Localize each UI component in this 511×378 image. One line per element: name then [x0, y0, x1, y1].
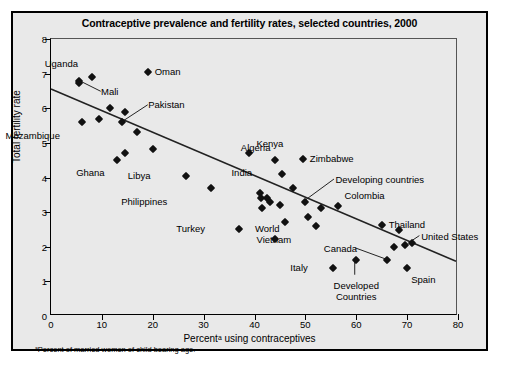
data-point — [207, 184, 215, 192]
x-tick-label: 30 — [198, 319, 209, 330]
x-tick-label: 70 — [402, 319, 413, 330]
point-label: Uganda — [45, 59, 78, 69]
point-label: Mali — [101, 87, 118, 97]
data-point — [334, 202, 342, 210]
x-tick-mark — [102, 314, 103, 320]
data-point — [281, 218, 289, 226]
x-tick-mark — [255, 314, 256, 320]
x-tick-label: 80 — [453, 319, 464, 330]
x-tick-label: 20 — [147, 319, 158, 330]
point-label: Canada — [324, 244, 357, 254]
data-point — [311, 222, 319, 230]
data-point — [299, 155, 307, 163]
data-point — [276, 201, 284, 209]
data-point — [235, 225, 243, 233]
point-label: Philippines — [121, 197, 167, 207]
point-label: Colombia — [344, 191, 384, 201]
data-point — [408, 238, 416, 246]
point-label: Oman — [155, 67, 181, 77]
x-tick-mark — [407, 314, 408, 320]
x-tick-mark — [356, 314, 357, 320]
point-label: United States — [421, 232, 478, 242]
data-point — [390, 243, 398, 251]
data-point — [105, 104, 113, 112]
point-label: Thailand — [389, 220, 425, 230]
data-point — [95, 114, 103, 122]
point-label: Turkey — [176, 224, 205, 234]
x-tick-label: 0 — [48, 319, 53, 330]
x-axis-label: Percentᵃ using contraceptives — [13, 333, 486, 344]
x-tick-label: 50 — [300, 319, 311, 330]
point-label: World — [255, 224, 280, 234]
point-label: Italy — [290, 263, 307, 273]
chart-title: Contraceptive prevalence and fertility r… — [13, 17, 486, 29]
data-point — [118, 118, 126, 126]
data-point — [258, 204, 266, 212]
data-point — [121, 148, 129, 156]
x-tick-mark — [153, 314, 154, 320]
y-tick-label: 0 — [42, 311, 47, 322]
point-label: Ghana — [76, 168, 105, 178]
point-label: Libya — [128, 171, 151, 181]
data-point — [278, 170, 286, 178]
data-point — [403, 264, 411, 272]
data-point — [133, 128, 141, 136]
data-point — [329, 263, 337, 271]
x-tick-label: 40 — [249, 319, 260, 330]
x-tick-mark — [204, 314, 205, 320]
data-points-layer: MaliUgandaOmanMozambiquePakistanGhanaLib… — [51, 39, 456, 314]
point-label: Pakistan — [148, 100, 184, 110]
data-point — [352, 256, 360, 264]
data-point — [301, 197, 309, 205]
data-point — [182, 172, 190, 180]
data-point — [113, 156, 121, 164]
data-point — [288, 184, 296, 192]
data-point — [87, 73, 95, 81]
data-point — [271, 156, 279, 164]
data-point — [77, 118, 85, 126]
x-tick-label: 10 — [97, 319, 108, 330]
data-point — [121, 107, 129, 115]
point-label: Spain — [411, 275, 435, 285]
x-tick-mark — [305, 314, 306, 320]
point-label: Zimbabwe — [310, 154, 354, 164]
point-label: India — [231, 168, 252, 178]
y-axis-label: Total fertility rate — [11, 90, 22, 163]
data-point — [143, 68, 151, 76]
plot-area: 012345678 01020304050607080 MaliUgandaOm… — [50, 38, 457, 315]
data-point — [383, 256, 391, 264]
data-point — [304, 213, 312, 221]
chart-footnote: ᵃPercent of married women of child beari… — [35, 345, 195, 354]
point-label: Algeria — [241, 143, 271, 153]
point-label: Developed Countries — [328, 281, 384, 303]
data-point — [149, 145, 157, 153]
point-label: Developing countries — [335, 175, 424, 185]
data-point — [316, 204, 324, 212]
x-tick-label: 60 — [351, 319, 362, 330]
data-point — [377, 221, 385, 229]
figure-container: Contraceptive prevalence and fertility r… — [11, 11, 488, 351]
x-tick-mark — [458, 314, 459, 320]
